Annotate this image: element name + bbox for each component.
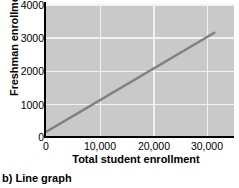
line-graph-figure: Freshman enrollment 4000 3000 2000 1000 … [0,0,239,188]
figure-caption: b) Line graph [2,172,72,184]
data-line-svg [46,4,234,137]
y-axis-title: Freshman enrollment [8,0,22,106]
y-axis-spine [44,2,47,138]
x-tick-label-10000: 10,000 [74,140,126,152]
y-tick-label-3000: 3000 [14,33,44,43]
x-axis-title: Total student enrollment [36,153,236,165]
y-tick-label-4000: 4000 [14,0,44,10]
y-tick-label-2000: 2000 [14,66,44,76]
y-tick-label-1000: 1000 [14,100,44,110]
x-tick-label-20000: 20,000 [128,140,180,152]
plot-area [46,4,234,137]
x-axis-spine [44,136,234,138]
data-line-series-1 [46,32,215,132]
x-tick-label-0: 0 [36,140,56,152]
x-tick-label-30000: 30,000 [181,140,233,152]
